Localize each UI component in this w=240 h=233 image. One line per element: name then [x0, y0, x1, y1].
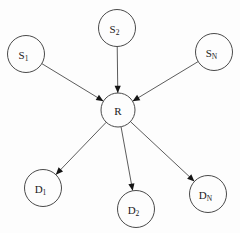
- node-label-base: D: [199, 189, 207, 201]
- node-s2[interactable]: S2: [99, 10, 136, 47]
- edge-r-to-d2: [121, 127, 133, 191]
- node-label-subscript: 2: [116, 27, 120, 36]
- edge-s1-to-r: [42, 64, 104, 102]
- node-layer: S1S2SNRD1D2DN: [8, 10, 233, 228]
- edge-sn-to-r: [133, 62, 199, 102]
- arrowhead-sn-to-r: [133, 95, 141, 101]
- arrowhead-r-to-d2: [128, 183, 134, 191]
- arrowhead-s1-to-r: [96, 95, 104, 101]
- node-label-base: D: [35, 183, 43, 195]
- graph-svg: S1S2SNRD1D2DN: [0, 0, 240, 233]
- node-label-subscript: N: [207, 193, 213, 202]
- diagram-canvas: S1S2SNRD1D2DN: [0, 0, 240, 233]
- node-label-subscript: 2: [136, 208, 140, 217]
- node-s1[interactable]: S1: [8, 36, 45, 73]
- edge-r-to-dn: [130, 122, 194, 182]
- node-dn[interactable]: DN: [190, 176, 227, 213]
- node-label-r: R: [114, 105, 122, 117]
- node-d1[interactable]: D1: [25, 170, 62, 207]
- node-label-subscript: N: [212, 51, 218, 60]
- node-sn[interactable]: SN: [196, 34, 233, 71]
- node-d2[interactable]: D2: [118, 191, 155, 228]
- node-label-subscript: 1: [25, 53, 29, 62]
- node-label-subscript: 1: [43, 187, 47, 196]
- node-label-base: R: [114, 105, 122, 117]
- arrowhead-s2-to-r: [115, 86, 121, 93]
- node-r[interactable]: R: [101, 93, 135, 127]
- node-label-base: D: [128, 204, 136, 216]
- edge-r-to-d1: [56, 122, 106, 174]
